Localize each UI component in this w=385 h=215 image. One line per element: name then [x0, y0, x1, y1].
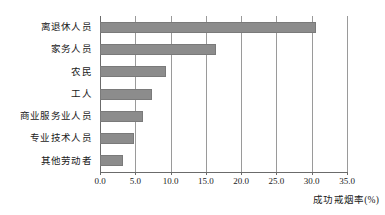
tick-mark	[171, 172, 172, 175]
tick-label: 15.0	[198, 176, 214, 186]
bar-row	[100, 150, 123, 172]
bar-4	[100, 111, 143, 122]
bar-6	[100, 155, 123, 166]
gridline-35	[347, 16, 348, 172]
bar-3	[100, 89, 152, 100]
bar-0	[100, 22, 316, 33]
tick-mark	[276, 172, 277, 175]
category-label: 其他劳动者	[41, 150, 93, 172]
bars-layer	[100, 16, 347, 172]
plot-area	[100, 16, 347, 172]
tick-label: 10.0	[163, 176, 179, 186]
tick-label: 20.0	[233, 176, 249, 186]
tick-mark	[347, 172, 348, 175]
x-axis-title: 成功戒烟率(%)	[313, 192, 379, 206]
bar-5	[100, 133, 134, 144]
bar-row	[100, 83, 152, 105]
tick-mark	[241, 172, 242, 175]
category-label: 离退休人员	[41, 16, 93, 38]
bar-row	[100, 105, 143, 127]
x-axis-tick-labels: 0.0 5.0 10.0 15.0 20.0 25.0 30.0 35.0	[100, 176, 347, 190]
bar-row	[100, 127, 134, 149]
bar-row	[100, 38, 216, 60]
tick-label: 5.0	[130, 176, 141, 186]
tick-mark	[135, 172, 136, 175]
category-label: 专业技术人员	[30, 127, 92, 149]
category-label: 商业服务业人员	[20, 105, 92, 127]
tick-label: 0.0	[94, 176, 105, 186]
bar-chart: 离退休人员 家务人员 农民 工人 商业服务业人员 专业技术人员 其他劳动者	[0, 0, 385, 215]
tick-mark	[100, 172, 101, 175]
category-label: 工人	[71, 83, 92, 105]
category-label: 农民	[71, 61, 92, 83]
bar-2	[100, 66, 166, 77]
tick-label: 30.0	[304, 176, 320, 186]
tick-mark	[206, 172, 207, 175]
category-label: 家务人员	[51, 38, 92, 60]
bar-row	[100, 16, 316, 38]
bar-row	[100, 61, 166, 83]
bar-1	[100, 44, 216, 55]
category-axis-labels: 离退休人员 家务人员 农民 工人 商业服务业人员 专业技术人员 其他劳动者	[0, 16, 96, 172]
tick-label: 25.0	[269, 176, 285, 186]
tick-label: 35.0	[339, 176, 355, 186]
tick-mark	[312, 172, 313, 175]
